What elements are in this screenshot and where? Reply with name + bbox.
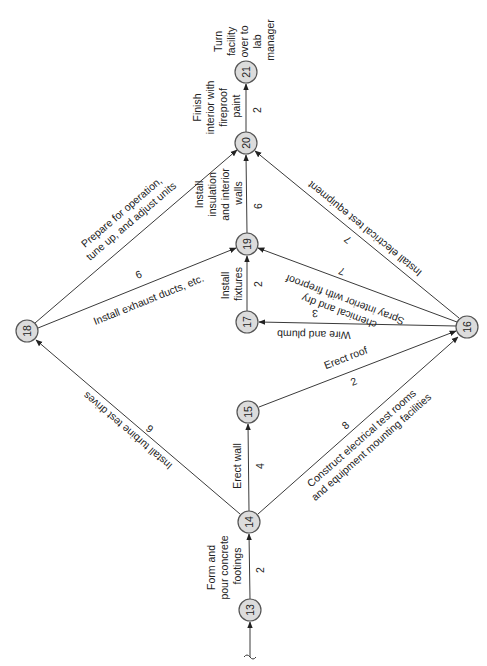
activity-17-19-line2: fixtures xyxy=(232,267,244,301)
node-21: 21 xyxy=(235,61,257,83)
edge-14-18 xyxy=(36,340,240,514)
duration-13-14: 2 xyxy=(254,567,266,573)
node-19-label: 19 xyxy=(241,238,253,250)
nodes: 13 14 15 16 17 18 19 20 xyxy=(16,61,478,621)
node-17: 17 xyxy=(236,311,258,333)
node-17-label: 17 xyxy=(241,316,253,328)
activity-15-16: Erect roof 2 xyxy=(322,343,369,387)
edge-13-14 xyxy=(249,534,250,599)
activity-16-20: Install electrical test equipment 7 xyxy=(305,179,424,279)
activity-19-20-line2: insulation xyxy=(206,172,218,217)
activity-16-17-line1: Wire and plumb xyxy=(277,328,351,341)
duration-14-18: 6 xyxy=(143,422,155,435)
node-16-label: 16 xyxy=(461,321,473,333)
edge-18-19 xyxy=(38,248,236,328)
duration-18-19: 6 xyxy=(134,268,144,281)
activity-13-14-line2: pour concrete xyxy=(218,535,230,599)
activity-19-20-line4: walls xyxy=(232,181,244,205)
node-21-label: 21 xyxy=(240,66,252,78)
activity-20-21: Finish interior with fireproof paint 2 xyxy=(191,78,263,135)
edge-14-15 xyxy=(248,424,249,511)
edge-19-20 xyxy=(246,155,247,233)
activity-14-16: Construct electrical test rooms and equi… xyxy=(300,381,433,503)
duration-16-20: 7 xyxy=(341,234,353,247)
node-20-label: 20 xyxy=(240,137,252,149)
node-15: 15 xyxy=(237,401,259,423)
activity-13-14-line3: footings xyxy=(231,548,243,585)
activity-14-18-line1: Install turbine test drives xyxy=(80,390,174,473)
activity-14-16-line1: Construct electrical test rooms xyxy=(304,387,418,490)
svg-text:Finish interior with: Finish interior with fireproof paint xyxy=(191,78,242,135)
activity-18-20-line2: tune up, and adjust units xyxy=(83,179,178,262)
node-18-label: 18 xyxy=(21,325,33,337)
final-note: Turn facility over to lab manager xyxy=(212,19,276,61)
final-note-line3: over to xyxy=(238,25,250,57)
activity-19-20-line3: and interior xyxy=(219,168,231,221)
node-14-label: 14 xyxy=(243,516,255,528)
svg-text:Install fixtures: Install fixtures xyxy=(219,267,244,301)
duration-16-19: 7 xyxy=(337,265,347,278)
duration-14-15: 4 xyxy=(254,463,266,469)
activity-17-19: Install fixtures 2 xyxy=(219,267,264,301)
network-diagram: 13 14 15 16 17 18 19 20 xyxy=(0,0,487,666)
duration-17-19: 2 xyxy=(252,281,264,287)
activity-14-16-line2: and equipment mounting facilities xyxy=(309,391,434,503)
svg-text:Prepare for operation, t: Prepare for operation, tune up, and adju… xyxy=(75,169,178,262)
node-19: 19 xyxy=(236,233,258,255)
activity-19-20-line1: Install xyxy=(193,181,205,208)
activity-18-19: Install exhaust ducts, etc. 6 xyxy=(92,268,206,327)
duration-15-16: 2 xyxy=(349,375,359,388)
activity-14-15-line1: Erect wall xyxy=(231,443,243,489)
activity-18-20: Prepare for operation, tune up, and adju… xyxy=(75,169,178,262)
svg-text:Install insulation: Install insulation and interior walls xyxy=(193,165,244,220)
node-13: 13 xyxy=(239,599,261,621)
activity-20-21-line3: fireproof xyxy=(217,88,229,127)
node-16: 16 xyxy=(456,316,478,338)
activity-17-19-line1: Install xyxy=(219,272,231,299)
node-20: 20 xyxy=(235,132,257,154)
duration-14-16: 8 xyxy=(339,418,351,431)
duration-20-21: 2 xyxy=(251,107,263,113)
edge-14-16 xyxy=(258,337,458,514)
final-note-line1: Turn xyxy=(212,31,224,52)
duration-19-20: 6 xyxy=(252,203,264,209)
node-13-label: 13 xyxy=(244,604,256,616)
activity-14-18: Install turbine test drives 6 xyxy=(80,390,174,473)
svg-text:Construct electrical test room: Construct electrical test rooms and equi… xyxy=(300,381,433,503)
svg-text:Turn facility over: Turn facility over to lab manager xyxy=(212,19,276,61)
activity-16-20-line1: Install electrical test equipment xyxy=(305,179,424,279)
final-note-line4: lab xyxy=(251,34,263,48)
node-14: 14 xyxy=(238,511,260,533)
activity-13-14: Form and pour concrete footings 2 xyxy=(205,532,266,599)
activity-20-21-line1: Finish xyxy=(191,93,203,121)
node-15-label: 15 xyxy=(242,406,254,418)
activity-13-14-line1: Form and xyxy=(205,545,217,590)
node-18: 18 xyxy=(16,320,38,342)
activity-18-20-line1: Prepare for operation, xyxy=(79,174,164,249)
edge-16-20 xyxy=(255,151,459,318)
activity-20-21-line4: paint xyxy=(230,95,242,118)
svg-text:Form and pour concrete: Form and pour concrete footings xyxy=(205,532,243,599)
entry-arrow xyxy=(244,622,256,659)
final-note-line5: manager xyxy=(264,19,276,61)
activity-19-20: Install insulation and interior walls 6 xyxy=(193,165,264,220)
activity-20-21-line2: interior with xyxy=(204,80,216,134)
final-note-line2: facility xyxy=(225,26,237,56)
